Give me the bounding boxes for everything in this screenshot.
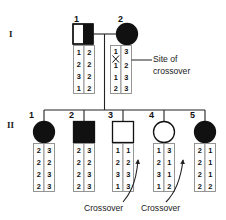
symbol-II-2-male-filled	[74, 122, 95, 143]
allele-I-2-right-3: 3	[124, 73, 128, 82]
allele-II-1-left-4: 2	[37, 182, 41, 191]
allele-I-1-left-3: 3	[77, 72, 81, 81]
allele-II-1-right-1: 3	[47, 146, 51, 155]
allele-II-5-left-3: 2	[198, 170, 202, 179]
allele-I-1-right-2: 2	[87, 60, 91, 69]
allele-II-3-left-4: 1	[116, 182, 120, 191]
allele-II-3-right-2: 2	[126, 158, 130, 167]
allele-II-2-right-3: 3	[87, 170, 91, 179]
site-of-crossover-label-line2: crossover	[153, 66, 190, 76]
indiv-number-II-2: 2	[69, 110, 74, 120]
allele-II-5-left-1: 2	[198, 146, 202, 155]
symbol-I-2-female-filled	[117, 24, 138, 45]
allele-II-4-left-3: 3	[157, 170, 161, 179]
allele-II-1-right-3: 3	[47, 170, 51, 179]
site-of-crossover-label-line1: Site of	[153, 54, 178, 64]
symbol-II-1-female-filled	[34, 122, 55, 143]
allele-II-3-right-4: 3	[126, 182, 130, 191]
symbol-II-5-female-filled	[195, 122, 216, 143]
allele-II-4-left-2: 2	[157, 158, 161, 167]
indiv-number-II-3: 3	[108, 110, 113, 120]
allele-II-4-right-4: 2	[167, 182, 171, 191]
allele-I-1-left-4: 1	[77, 84, 81, 93]
allele-I-1-right-3: 2	[87, 72, 91, 81]
haplotype-box-II-5: 2 2 2 2 1 1 1 2	[195, 144, 216, 192]
allele-I-2-left-1: 1	[114, 47, 118, 56]
allele-II-3-right-1: 1	[126, 146, 130, 155]
allele-I-1-right-4: 2	[87, 84, 91, 93]
allele-II-5-left-2: 2	[198, 158, 202, 167]
generation-label-I: I	[9, 29, 13, 39]
allele-I-2-right-2: 2	[124, 61, 128, 70]
allele-II-5-left-4: 2	[198, 182, 202, 191]
haplotype-box-II-3: 1 2 3 1 1 2 3 3	[113, 144, 134, 192]
allele-I-2-right-4: 3	[124, 84, 128, 93]
indiv-number-II-1: 1	[29, 110, 34, 120]
allele-II-3-left-3: 3	[116, 170, 120, 179]
allele-II-1-left-3: 2	[37, 170, 41, 179]
allele-I-2-left-3: 1	[114, 73, 118, 82]
indiv-number-I-2: 2	[118, 14, 123, 24]
crossover-label-left: Crossover	[84, 203, 123, 213]
allele-II-1-right-2: 2	[47, 158, 51, 167]
allele-II-2-left-2: 2	[77, 158, 81, 167]
allele-II-4-right-1: 3	[167, 146, 171, 155]
allele-I-1-left-1: 1	[77, 48, 81, 57]
symbol-II-3-male-open	[113, 122, 134, 143]
allele-II-4-right-3: 1	[167, 170, 171, 179]
allele-II-2-left-3: 2	[77, 170, 81, 179]
allele-I-2-left-4: 2	[114, 84, 118, 93]
haplotype-box-II-4: 1 2 3 1 3 1 1 2	[154, 144, 175, 192]
pedigree-diagram: I II 1 2 1 2 3 1 2 2 2	[0, 0, 226, 220]
allele-II-2-right-2: 2	[87, 158, 91, 167]
allele-II-3-left-2: 2	[116, 158, 120, 167]
haplotype-box-I-1: 1 2 3 1 2 2 2 2	[74, 46, 95, 94]
pedigree-canvas: I II 1 2 1 2 3 1 2 2 2	[0, 0, 226, 220]
allele-II-5-right-1: 1	[208, 146, 212, 155]
allele-I-1-right-1: 2	[87, 48, 91, 57]
indiv-number-I-1: 1	[74, 14, 79, 24]
allele-II-2-left-1: 2	[77, 146, 81, 155]
allele-II-2-right-4: 3	[87, 182, 91, 191]
allele-II-1-left-2: 2	[37, 158, 41, 167]
generation-label-II: II	[7, 120, 15, 130]
symbol-II-4-female-open	[154, 122, 175, 143]
allele-II-2-left-4: 2	[77, 182, 81, 191]
haplotype-box-II-2: 2 2 2 2 3 2 3 3	[74, 144, 95, 192]
allele-II-4-left-1: 1	[157, 146, 161, 155]
allele-II-1-right-4: 3	[47, 182, 51, 191]
indiv-number-II-4: 4	[149, 110, 154, 120]
symbol-I-1-male-half-filled	[73, 24, 93, 44]
allele-I-2-left-2: 1	[114, 61, 118, 70]
allele-II-1-left-1: 2	[37, 146, 41, 155]
haplotype-box-II-1: 2 2 2 2 3 2 3 3	[34, 144, 55, 192]
allele-II-2-right-1: 3	[87, 146, 91, 155]
allele-II-4-left-4: 1	[157, 182, 161, 191]
allele-II-5-right-2: 1	[208, 158, 212, 167]
allele-I-2-right-1: 3	[124, 47, 128, 56]
haplotype-box-I-2: 1 1 1 2 3 2 3 3	[111, 46, 132, 94]
allele-II-3-left-1: 1	[116, 146, 120, 155]
allele-II-5-right-4: 2	[208, 182, 212, 191]
allele-II-3-right-3: 3	[126, 170, 130, 179]
allele-II-5-right-3: 1	[208, 170, 212, 179]
crossover-label-right: Crossover	[141, 203, 180, 213]
indiv-number-II-5: 5	[190, 110, 195, 120]
allele-I-1-left-2: 2	[77, 60, 81, 69]
allele-II-4-right-2: 1	[167, 158, 171, 167]
